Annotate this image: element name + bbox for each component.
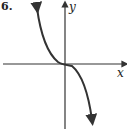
problem-number: 6. (1, 0, 12, 13)
y-axis-label: y (69, 0, 76, 14)
x-axis-label: x (117, 66, 124, 80)
graph (0, 0, 127, 129)
